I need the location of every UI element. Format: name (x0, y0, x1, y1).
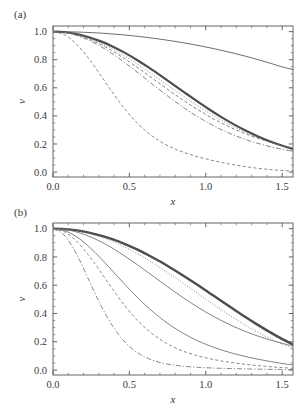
x-tick-label: 1.0 (199, 379, 212, 390)
panel-label: (b) (14, 206, 27, 219)
curve-bundle-dotted (53, 32, 293, 149)
x-tick-label: 0.5 (123, 379, 136, 390)
panel-label: (a) (14, 8, 27, 21)
axis-ticks (53, 223, 293, 375)
y-tick-label: 0.6 (34, 280, 47, 291)
y-tick-label: 0.2 (34, 336, 47, 347)
y-tick-label: 0.0 (34, 365, 47, 376)
curve-bundle-dashdot (53, 32, 293, 152)
y-tick-label: 0.0 (34, 167, 47, 178)
figure-container: 0.00.51.01.50.00.20.40.60.81.0xv(a) 0.00… (0, 0, 306, 419)
curve-fastest-dashdot (53, 229, 293, 370)
curve-thick-bundle-solid (53, 32, 293, 149)
chart-panel-b: 0.00.51.01.50.00.20.40.60.81.0xv(b) (0, 205, 306, 419)
x-tick-label: 1.5 (276, 181, 289, 192)
y-tick-label: 1.0 (34, 26, 47, 37)
plot-frame (53, 26, 293, 177)
curve-steep-solid (53, 229, 293, 365)
curve-fast-dashed (53, 32, 293, 171)
y-tick-label: 0.2 (34, 139, 47, 150)
y-tick-label: 0.4 (34, 110, 48, 121)
plot-area-b: 0.00.51.01.50.00.20.40.60.81.0xv(b) (0, 205, 306, 419)
plot-area-a: 0.00.51.01.50.00.20.40.60.81.0xv(a) (0, 0, 306, 210)
y-tick-label: 0.8 (34, 252, 47, 263)
y-axis-title: v (15, 296, 27, 301)
curve-steep-dashed (53, 229, 293, 369)
y-tick-label: 1.0 (34, 223, 47, 234)
y-axis-title: v (15, 99, 27, 104)
x-tick-label: 1.5 (276, 379, 289, 390)
chart-panel-a: 0.00.51.01.50.00.20.40.60.81.0xv(a) (0, 0, 306, 210)
x-axis-title: x (170, 393, 176, 405)
y-tick-label: 0.8 (34, 54, 47, 65)
curve-group (53, 229, 293, 370)
x-tick-label: 0.0 (46, 379, 59, 390)
curve-group (53, 32, 293, 171)
curve-bundle-dashed (53, 32, 293, 148)
axis-ticks (53, 26, 293, 177)
plot-frame (53, 223, 293, 375)
x-tick-label: 0.0 (46, 181, 59, 192)
x-tick-label: 1.0 (199, 181, 212, 192)
y-tick-label: 0.6 (34, 82, 47, 93)
x-tick-label: 0.5 (123, 181, 136, 192)
y-tick-label: 0.4 (34, 308, 48, 319)
